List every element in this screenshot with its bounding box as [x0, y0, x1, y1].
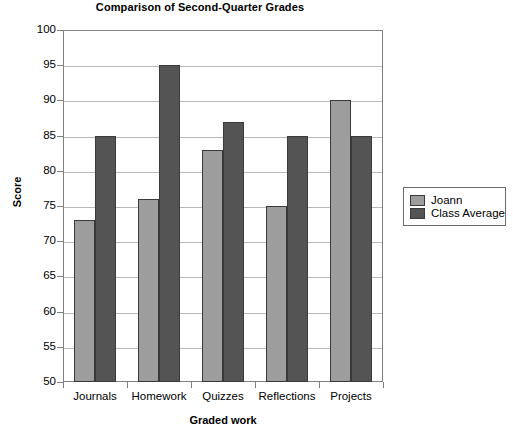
- y-tick-label: 65: [22, 270, 56, 280]
- legend-item-class-average: Class Average: [410, 207, 500, 219]
- y-tick-label: 50: [22, 376, 56, 386]
- bar-journals-class-average: [95, 136, 116, 382]
- chart-legend: Joann Class Average: [403, 187, 506, 226]
- x-tick-mark: [127, 382, 128, 388]
- x-tick-mark: [383, 382, 384, 388]
- bar-quizzes-joann: [202, 150, 223, 382]
- y-tick-label: 75: [22, 200, 56, 210]
- y-tick-label: 100: [22, 24, 56, 34]
- bar-reflections-joann: [266, 206, 287, 382]
- bar-homework-class-average: [159, 65, 180, 382]
- bar-journals-joann: [74, 220, 95, 382]
- x-tick-mark: [255, 382, 256, 388]
- y-tick-label: 90: [22, 94, 56, 104]
- y-tick-label: 95: [22, 59, 56, 69]
- bar-homework-joann: [138, 199, 159, 382]
- y-tick-label: 85: [22, 130, 56, 140]
- x-tick-mark: [191, 382, 192, 388]
- bar-chart: Comparison of Second-Quarter Grades Scor…: [0, 0, 513, 439]
- x-tick-mark: [319, 382, 320, 388]
- legend-swatch-class-average: [410, 208, 425, 219]
- bar-projects-joann: [330, 100, 351, 382]
- legend-label-joann: Joann: [431, 194, 462, 206]
- y-tick-label: 70: [22, 235, 56, 245]
- y-tick-label: 80: [22, 165, 56, 175]
- legend-swatch-joann: [410, 195, 425, 206]
- x-tick-mark: [63, 382, 64, 388]
- legend-item-joann: Joann: [410, 194, 500, 206]
- y-tick-label: 55: [22, 341, 56, 351]
- bars-layer: [63, 30, 383, 382]
- legend-label-class-average: Class Average: [431, 207, 505, 219]
- bar-reflections-class-average: [287, 136, 308, 382]
- x-axis-label: Graded work: [63, 414, 383, 426]
- bar-projects-class-average: [351, 136, 372, 382]
- bar-quizzes-class-average: [223, 122, 244, 382]
- y-tick-label: 60: [22, 306, 56, 316]
- x-tick-label-projects: Projects: [308, 390, 394, 402]
- chart-title: Comparison of Second-Quarter Grades: [0, 1, 400, 13]
